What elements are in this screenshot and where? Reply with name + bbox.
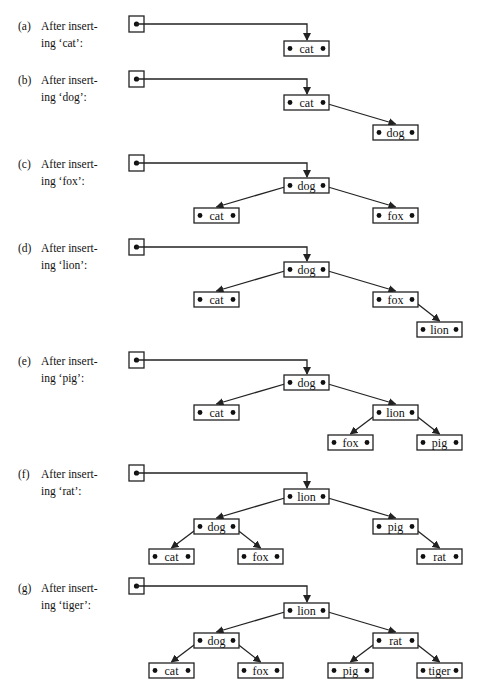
child-pointer-arrow bbox=[217, 611, 291, 633]
root-pointer-arrow bbox=[137, 24, 308, 40]
tree-node-fox: fox bbox=[373, 292, 418, 307]
left-pointer-dot-icon bbox=[198, 524, 203, 529]
right-pointer-dot-icon bbox=[231, 410, 236, 415]
tree-node-pig: pig bbox=[373, 519, 418, 534]
tree-node-dog: dog bbox=[284, 375, 329, 390]
left-pointer-dot-icon bbox=[288, 183, 293, 188]
node-key-label: cat bbox=[210, 406, 225, 420]
right-pointer-dot-icon bbox=[231, 297, 236, 302]
right-pointer-dot-icon bbox=[321, 183, 326, 188]
tree-node-fox: fox bbox=[238, 549, 283, 564]
left-pointer-dot-icon bbox=[421, 440, 426, 445]
node-key-label: lion bbox=[297, 490, 316, 504]
left-pointer-dot-icon bbox=[288, 267, 293, 272]
node-key-label: cat bbox=[210, 293, 225, 307]
tree-panel-a: cat bbox=[129, 16, 329, 56]
tree-node-lion: lion bbox=[284, 603, 329, 618]
root-pointer-arrow bbox=[137, 473, 308, 488]
root-pointer-arrow bbox=[137, 586, 308, 602]
right-pointer-dot-icon bbox=[231, 213, 236, 218]
right-pointer-dot-icon bbox=[186, 668, 191, 673]
right-pointer-dot-icon bbox=[321, 46, 326, 51]
right-pointer-dot-icon bbox=[454, 668, 459, 673]
child-pointer-arrow bbox=[217, 383, 291, 405]
left-pointer-dot-icon bbox=[332, 668, 337, 673]
left-pointer-dot-icon bbox=[198, 410, 203, 415]
left-pointer-dot-icon bbox=[332, 440, 337, 445]
tree-node-cat: cat bbox=[149, 549, 194, 564]
child-pointer-arrow bbox=[323, 186, 396, 208]
tree-node-dog: dog bbox=[284, 178, 329, 193]
right-pointer-dot-icon bbox=[321, 380, 326, 385]
tree-node-cat: cat bbox=[149, 663, 194, 678]
node-key-label: fox bbox=[253, 550, 269, 564]
tree-node-rat: rat bbox=[417, 549, 462, 564]
node-key-label: pig bbox=[432, 436, 447, 450]
right-pointer-dot-icon bbox=[410, 410, 415, 415]
node-key-label: rat bbox=[389, 634, 402, 648]
tree-panel-c: dogcatfox bbox=[129, 155, 418, 223]
node-key-label: pig bbox=[343, 664, 358, 678]
left-pointer-dot-icon bbox=[242, 668, 247, 673]
right-pointer-dot-icon bbox=[365, 440, 370, 445]
right-pointer-dot-icon bbox=[275, 554, 280, 559]
left-pointer-dot-icon bbox=[198, 638, 203, 643]
left-pointer-dot-icon bbox=[153, 554, 158, 559]
left-pointer-dot-icon bbox=[153, 668, 158, 673]
right-pointer-dot-icon bbox=[410, 297, 415, 302]
root-pointer-arrow bbox=[137, 79, 308, 94]
node-key-label: lion bbox=[430, 323, 449, 337]
node-key-label: cat bbox=[165, 550, 180, 564]
left-pointer-dot-icon bbox=[377, 524, 382, 529]
child-pointer-arrow bbox=[323, 270, 396, 292]
node-key-label: fox bbox=[388, 209, 404, 223]
tree-node-cat: cat bbox=[284, 95, 329, 110]
node-key-label: dog bbox=[208, 520, 226, 534]
node-key-label: lion bbox=[297, 604, 316, 618]
child-pointer-arrow bbox=[323, 383, 396, 405]
left-pointer-dot-icon bbox=[288, 608, 293, 613]
tree-node-rat: rat bbox=[373, 633, 418, 648]
tree-node-fox: fox bbox=[328, 435, 373, 450]
tree-node-tiger: tiger bbox=[417, 663, 462, 678]
child-pointer-arrow bbox=[217, 497, 291, 519]
tree-node-cat: cat bbox=[194, 405, 239, 420]
left-pointer-dot-icon bbox=[288, 100, 293, 105]
binary-search-tree-diagram: catcatdogdogcatfoxdogcatfoxliondogcatlio… bbox=[0, 0, 480, 696]
right-pointer-dot-icon bbox=[321, 494, 326, 499]
tree-panel-d: dogcatfoxlion bbox=[129, 239, 462, 337]
tree-node-dog: dog bbox=[194, 633, 239, 648]
tree-panel-b: catdog bbox=[129, 71, 418, 140]
left-pointer-dot-icon bbox=[288, 494, 293, 499]
left-pointer-dot-icon bbox=[288, 46, 293, 51]
tree-node-fox: fox bbox=[238, 663, 283, 678]
left-pointer-dot-icon bbox=[421, 668, 426, 673]
tree-node-pig: pig bbox=[328, 663, 373, 678]
left-pointer-dot-icon bbox=[377, 297, 382, 302]
node-key-label: dog bbox=[298, 376, 316, 390]
right-pointer-dot-icon bbox=[454, 327, 459, 332]
root-pointer-arrow bbox=[137, 360, 308, 374]
tree-node-lion: lion bbox=[284, 489, 329, 504]
node-key-label: fox bbox=[253, 664, 269, 678]
tree-node-dog: dog bbox=[194, 519, 239, 534]
left-pointer-dot-icon bbox=[421, 327, 426, 332]
tree-node-dog: dog bbox=[373, 125, 418, 140]
right-pointer-dot-icon bbox=[410, 213, 415, 218]
left-pointer-dot-icon bbox=[377, 213, 382, 218]
tree-node-lion: lion bbox=[417, 322, 462, 337]
left-pointer-dot-icon bbox=[242, 554, 247, 559]
child-pointer-arrow bbox=[217, 270, 291, 292]
tree-node-cat: cat bbox=[284, 41, 329, 56]
node-key-label: rat bbox=[433, 550, 446, 564]
node-key-label: tiger bbox=[429, 664, 451, 678]
tree-node-cat: cat bbox=[194, 208, 239, 223]
right-pointer-dot-icon bbox=[231, 638, 236, 643]
left-pointer-dot-icon bbox=[421, 554, 426, 559]
right-pointer-dot-icon bbox=[410, 130, 415, 135]
left-pointer-dot-icon bbox=[198, 297, 203, 302]
right-pointer-dot-icon bbox=[275, 668, 280, 673]
tree-panels: catcatdogdogcatfoxdogcatfoxliondogcatlio… bbox=[129, 16, 462, 678]
tree-panel-e: dogcatlionfoxpig bbox=[129, 352, 462, 450]
right-pointer-dot-icon bbox=[321, 608, 326, 613]
